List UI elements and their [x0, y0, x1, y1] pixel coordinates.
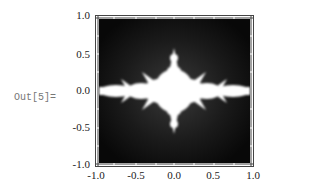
y-tick: -0.5: [50, 121, 90, 133]
fractal-density-plot: [95, 15, 254, 167]
x-tick: -0.5: [116, 169, 156, 181]
y-tick: 1.0: [50, 9, 90, 21]
x-tick: 1.0: [233, 169, 272, 181]
x-tick: 0.5: [193, 169, 233, 181]
x-tick: 0.0: [154, 169, 194, 181]
y-tick: 0.0: [50, 84, 90, 96]
y-tick: 0.5: [50, 48, 90, 60]
fractal-image: [96, 16, 253, 166]
x-tick: -1.0: [76, 169, 116, 181]
